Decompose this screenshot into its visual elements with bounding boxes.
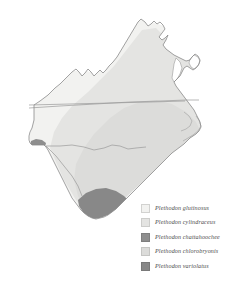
legend-item-chattahoochee: Plethodon chattahoochee [141,233,227,242]
species-range-layer [29,19,201,219]
legend-label-glutinosus: Plethodon glutinosus [155,204,209,213]
legend-swatch-cylindraceus [141,218,150,227]
legend-swatch-chattahoochee [141,233,150,242]
legend-swatch-variolatus [141,262,150,271]
legend-item-cylindraceus: Plethodon cylindraceus [141,218,227,227]
map-legend: Plethodon glutinosus Plethodon cylindrac… [141,204,227,271]
legend-label-cylindraceus: Plethodon cylindraceus [155,218,215,227]
legend-item-variolatus: Plethodon variolatus [141,262,227,271]
legend-item-chlorobryonis: Plethodon chlorobryonis [141,247,227,256]
species-distribution-figure: Plethodon glutinosus Plethodon cylindrac… [0,0,229,285]
legend-swatch-chlorobryonis [141,247,150,256]
legend-item-glutinosus: Plethodon glutinosus [141,204,227,213]
legend-label-variolatus: Plethodon variolatus [155,262,209,271]
legend-label-chattahoochee: Plethodon chattahoochee [155,233,220,242]
legend-label-chlorobryonis: Plethodon chlorobryonis [155,247,218,256]
legend-swatch-glutinosus [141,204,150,213]
